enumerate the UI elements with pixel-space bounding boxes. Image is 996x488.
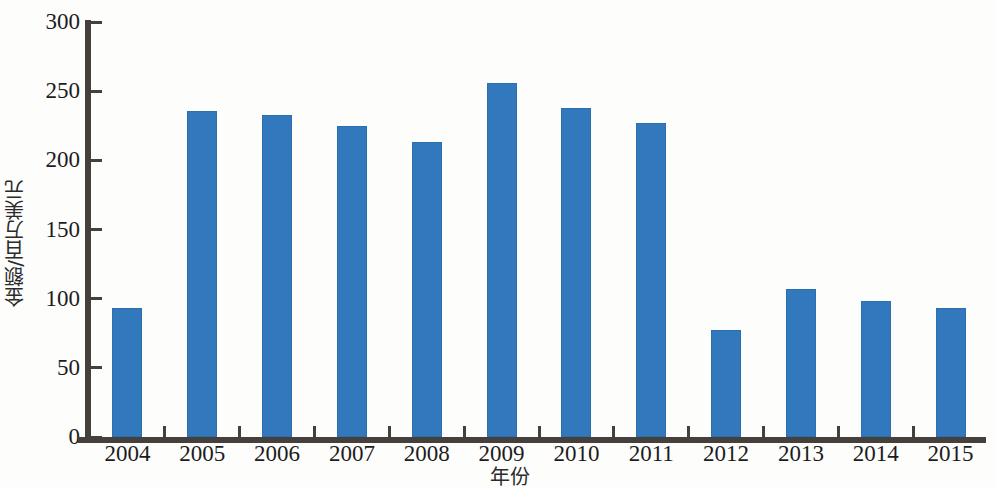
- bar-series: [90, 22, 988, 437]
- x-axis-title-text: 年份: [490, 465, 530, 488]
- y-axis-tick-label: 150: [32, 217, 80, 243]
- bar: [711, 330, 741, 437]
- y-axis-tick-label: 300: [32, 9, 80, 35]
- plot-area: [90, 22, 988, 437]
- y-axis-title: 金额/百万美元: [2, 138, 26, 348]
- bar: [561, 108, 591, 437]
- y-axis-tick-label: 0: [32, 424, 80, 450]
- bar: [636, 123, 666, 437]
- y-axis-tick-label: 100: [32, 286, 80, 312]
- bar: [487, 83, 517, 437]
- bar: [112, 308, 142, 437]
- y-axis-tick-label: 50: [32, 355, 80, 381]
- bar: [936, 308, 966, 437]
- y-axis-tick-label: 200: [32, 147, 80, 173]
- bar: [187, 111, 217, 437]
- x-axis-title: 年份: [0, 461, 996, 488]
- y-axis-tick-label: 250: [32, 78, 80, 104]
- bar: [412, 142, 442, 437]
- bar-chart: 金额/百万美元 050100150200250300 2004200520062…: [0, 0, 996, 488]
- y-axis-tick-labels: 050100150200250300: [24, 0, 80, 488]
- bar: [262, 115, 292, 437]
- bar: [337, 126, 367, 437]
- bar: [786, 289, 816, 437]
- bar: [861, 301, 891, 437]
